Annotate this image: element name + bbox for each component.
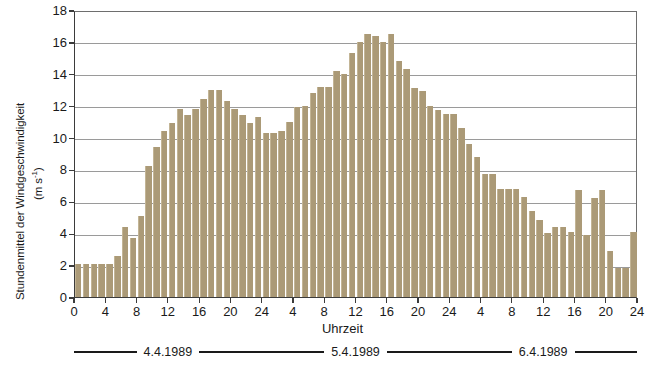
- x-tick-mark: [449, 298, 450, 303]
- date-band-legend: 4.4.19895.4.19896.4.1989: [74, 343, 637, 363]
- x-tick-label: 20: [403, 305, 433, 319]
- x-tick-label: 4: [90, 305, 120, 319]
- x-axis-title: Uhrzeit: [0, 321, 655, 336]
- x-tick-label: 12: [153, 305, 183, 319]
- bar: [302, 106, 308, 297]
- bar: [615, 268, 621, 297]
- bar: [630, 232, 636, 297]
- x-tick-label: 16: [372, 305, 402, 319]
- date-band-label: 5.4.1989: [324, 346, 387, 359]
- y-tick-label: 4: [15, 227, 67, 240]
- x-tick-mark: [355, 298, 356, 303]
- bar: [169, 123, 175, 297]
- bar: [122, 227, 128, 297]
- bar: [536, 220, 542, 297]
- x-tick-label: 24: [622, 305, 652, 319]
- bar: [317, 87, 323, 297]
- x-tick-mark: [480, 298, 481, 303]
- date-band-rule-left: [74, 351, 137, 353]
- bar: [364, 34, 370, 297]
- date-band-segment: 5.4.1989: [262, 343, 450, 361]
- bar: [75, 264, 81, 297]
- bar: [435, 110, 441, 297]
- bar: [521, 197, 527, 297]
- x-tick-label: 20: [215, 305, 245, 319]
- date-band-rule-right: [387, 351, 450, 353]
- bar: [341, 74, 347, 297]
- bar: [403, 69, 409, 297]
- bar: [474, 157, 480, 297]
- y-tick-label: 6: [15, 195, 67, 208]
- bar: [153, 147, 159, 297]
- bar: [286, 122, 292, 297]
- x-tick-label: 16: [559, 305, 589, 319]
- x-tick-label: 20: [591, 305, 621, 319]
- date-band-rule-right: [575, 351, 638, 353]
- plot-area: [74, 11, 637, 298]
- bar: [98, 264, 104, 297]
- x-tick-mark: [261, 298, 262, 303]
- bar: [583, 235, 589, 297]
- bar: [184, 115, 190, 297]
- bar: [560, 227, 566, 297]
- x-tick-mark: [167, 298, 168, 303]
- date-band-segment: 4.4.1989: [74, 343, 262, 361]
- bar: [575, 190, 581, 297]
- x-tick-label: 12: [341, 305, 371, 319]
- bar: [310, 93, 316, 297]
- wind-speed-bar-chart: Stundenmittel der Windgeschwindigkeit (m…: [0, 0, 655, 365]
- bar: [388, 34, 394, 297]
- x-tick-label: 16: [184, 305, 214, 319]
- x-tick-mark: [324, 298, 325, 303]
- x-tick-mark: [574, 298, 575, 303]
- y-tick-label: 10: [15, 132, 67, 145]
- bar: [247, 123, 253, 297]
- bar: [130, 238, 136, 297]
- bar: [278, 131, 284, 297]
- bar: [208, 90, 214, 297]
- bar: [106, 264, 112, 297]
- y-tick-label: 8: [15, 163, 67, 176]
- bar: [114, 256, 120, 297]
- bar: [544, 233, 550, 297]
- x-tick-mark: [417, 298, 418, 303]
- x-tick-label: 24: [434, 305, 464, 319]
- y-tick-label: 2: [15, 259, 67, 272]
- bar: [177, 109, 183, 297]
- x-tick-label: 8: [309, 305, 339, 319]
- date-band-rule-left: [449, 351, 512, 353]
- bar: [482, 174, 488, 297]
- y-tick-label: 0: [15, 291, 67, 304]
- date-band-label: 4.4.1989: [137, 346, 200, 359]
- bar: [138, 216, 144, 297]
- date-band-rule-right: [199, 351, 262, 353]
- bar: [443, 114, 449, 297]
- x-tick-mark: [105, 298, 106, 303]
- x-axis-title-text: Uhrzeit: [322, 321, 363, 336]
- x-tick-mark: [511, 298, 512, 303]
- bar: [591, 198, 597, 297]
- date-band-rule-left: [262, 351, 325, 353]
- bar: [552, 227, 558, 297]
- bar: [372, 36, 378, 297]
- bar: [200, 99, 206, 297]
- bar: [497, 189, 503, 297]
- bar: [513, 189, 519, 297]
- bar: [161, 131, 167, 297]
- x-tick-label: 8: [122, 305, 152, 319]
- bar: [568, 232, 574, 297]
- x-tick-label: 4: [466, 305, 496, 319]
- y-tick-label: 14: [15, 68, 67, 81]
- bar: [607, 251, 613, 297]
- date-band-segment: 6.4.1989: [449, 343, 637, 361]
- bar: [622, 268, 628, 297]
- bar: [224, 101, 230, 297]
- x-tick-mark: [386, 298, 387, 303]
- bar: [263, 133, 269, 297]
- x-tick-mark: [136, 298, 137, 303]
- y-tick-label: 16: [15, 36, 67, 49]
- bar: [83, 264, 89, 297]
- bar: [380, 42, 386, 297]
- bar: [270, 133, 276, 297]
- x-tick-mark: [636, 298, 637, 303]
